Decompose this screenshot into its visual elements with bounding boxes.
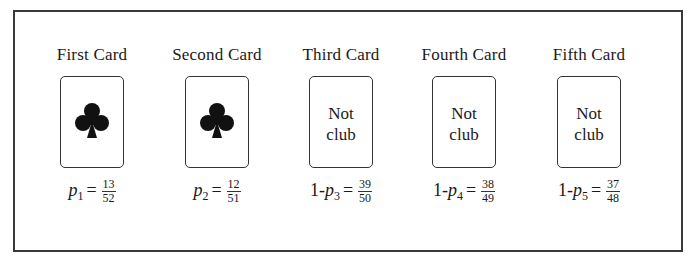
formula-variable: p [573,180,582,200]
card-face-line-1: Not [310,103,372,124]
formula-subscript: 4 [457,189,463,203]
formula-subscript: 3 [334,189,340,203]
card-face-line-2: club [558,124,620,145]
formula-prefix: 1- [558,180,573,200]
probability-formula: 1-p5=3748 [519,178,659,205]
fraction: 3950 [358,178,372,205]
card-face-label: Not club [558,103,620,145]
equals-sign: = [466,180,476,200]
playing-card [60,76,124,168]
card-face-line-2: club [310,124,372,145]
denominator: 51 [227,192,241,205]
probability-formula: p2=1251 [147,178,287,205]
club-suit-icon [200,101,234,141]
formula-subscript: 2 [202,189,208,203]
numerator: 13 [102,178,116,192]
equals-sign: = [86,180,96,200]
fraction: 1251 [227,178,241,205]
formula-variable: p [448,180,457,200]
numerator: 12 [227,178,241,192]
card-title: Third Card [271,45,411,65]
card-face-line-1: Not [433,103,495,124]
card-title: Fourth Card [394,45,534,65]
numerator: 37 [606,178,620,192]
numerator: 38 [481,178,495,192]
denominator: 50 [358,192,372,205]
numerator: 39 [358,178,372,192]
playing-card [185,76,249,168]
card-title: Second Card [147,45,287,65]
card-face-label: Not club [310,103,372,145]
formula-prefix: 1- [433,180,448,200]
probability-formula: 1-p3=3950 [271,178,411,205]
equals-sign: = [591,180,601,200]
playing-card: Not club [557,76,621,168]
card-title: Fifth Card [519,45,659,65]
card-face-label: Not club [433,103,495,145]
equals-sign: = [211,180,221,200]
formula-prefix: 1- [310,180,325,200]
denominator: 52 [102,192,116,205]
playing-card: Not club [432,76,496,168]
card-title: First Card [22,45,162,65]
fraction: 1352 [102,178,116,205]
equals-sign: = [343,180,353,200]
card-face-line-1: Not [558,103,620,124]
probability-formula: 1-p4=3849 [394,178,534,205]
formula-subscript: 1 [77,189,83,203]
probability-formula: p1=1352 [22,178,162,205]
playing-card: Not club [309,76,373,168]
denominator: 48 [606,192,620,205]
formula-subscript: 5 [582,189,588,203]
formula-variable: p [325,180,334,200]
fraction: 3849 [481,178,495,205]
club-suit-icon [75,101,109,141]
card-face-line-2: club [433,124,495,145]
denominator: 49 [481,192,495,205]
fraction: 3748 [606,178,620,205]
